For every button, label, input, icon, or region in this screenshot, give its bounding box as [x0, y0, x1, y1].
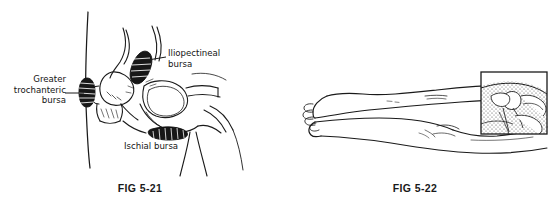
- figure-panel-fig-5-21: Greater trochanteric bursa Iliopectineal…: [0, 0, 280, 208]
- hip-detail-inset: [481, 72, 547, 134]
- prone-legs-illustration: [275, 0, 555, 180]
- label-greater-trochanteric-bursa: Greater trochanteric bursa: [6, 74, 66, 106]
- label-line: bursa: [168, 59, 258, 70]
- iliopectineal-bursa-shape: [130, 51, 152, 84]
- label-line: bursa: [6, 95, 66, 106]
- figure-caption-fig-5-22: FIG 5-22: [275, 182, 555, 194]
- label-ischial-bursa: Ischial bursa: [124, 141, 214, 152]
- near-leg-top-contour: [315, 118, 453, 130]
- label-line: trochanteric: [6, 85, 66, 96]
- label-line: Greater: [6, 74, 66, 85]
- label-line: Iliopectineal: [168, 48, 258, 59]
- figure-caption-fig-5-21: FIG 5-21: [0, 182, 280, 194]
- ischial-bursa-shape: [148, 127, 187, 140]
- near-leg-bottom-contour: [321, 136, 547, 153]
- figure-panel-fig-5-22: FIG 5-22: [275, 0, 555, 208]
- figure-plate: Greater trochanteric bursa Iliopectineal…: [0, 0, 555, 208]
- label-line: Ischial bursa: [124, 141, 214, 152]
- label-iliopectineal-bursa: Iliopectineal bursa: [168, 48, 258, 69]
